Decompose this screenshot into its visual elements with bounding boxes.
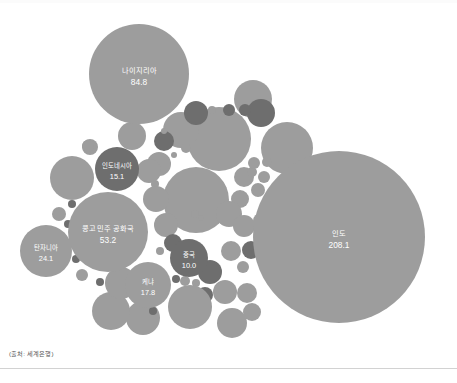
bubble-unlabeled [213, 280, 237, 304]
bubble-unlabeled [50, 156, 94, 200]
bubble-circle [68, 192, 148, 272]
bubble-unlabeled [180, 276, 190, 286]
bubble-unlabeled [248, 157, 260, 169]
bubble-labeled: 콩고 민주 공화국53.2 [68, 192, 148, 272]
source-note: (출처: 세계은행) [9, 349, 54, 358]
bubble-unlabeled [217, 308, 247, 338]
bubble-unlabeled [168, 285, 212, 329]
bubble-circle [95, 147, 139, 191]
bubble-unlabeled [171, 152, 177, 158]
bubble-labeled: 인도208.1 [253, 151, 425, 323]
bubble-unlabeled [172, 275, 180, 283]
bubble-unlabeled [68, 200, 76, 208]
bubble-unlabeled [233, 215, 255, 237]
bubble-labeled: 탄자니아24.1 [20, 225, 72, 277]
bottom-rule [0, 368, 457, 369]
bubble-circle [170, 239, 208, 277]
bubble-svg: 인도208.1나이지리아84.8콩고 민주 공화국53.2탄자니아24.1케냐1… [0, 0, 457, 348]
bubble-unlabeled [137, 159, 161, 183]
bubble-unlabeled [247, 99, 275, 127]
bubble-unlabeled [223, 104, 235, 116]
bubble-unlabeled [198, 215, 204, 221]
bubble-plot-area: 인도208.1나이지리아84.8콩고 민주 공화국53.2탄자니아24.1케냐1… [0, 0, 457, 348]
bubble-labeled: 나이지리아84.8 [89, 24, 189, 124]
bubble-unlabeled [191, 210, 199, 218]
bubble-circle [253, 151, 425, 323]
bubble-unlabeled [154, 213, 178, 237]
bubble-unlabeled [251, 183, 265, 197]
bubble-unlabeled [118, 122, 146, 150]
bubble-chart-figure: 인도208.1나이지리아84.8콩고 민주 공화국53.2탄자니아24.1케냐1… [0, 0, 457, 383]
bubble-unlabeled [237, 283, 257, 303]
bubble-unlabeled [262, 157, 272, 167]
bubble-unlabeled [208, 106, 216, 114]
bubble-unlabeled [221, 241, 241, 261]
bubble-circle [20, 225, 72, 277]
bubble-unlabeled [149, 307, 157, 315]
bubble-labeled: 케냐17.8 [125, 262, 171, 308]
bubble-unlabeled [239, 104, 251, 116]
bubble-unlabeled [82, 140, 94, 152]
bubble-unlabeled [76, 269, 88, 281]
bubble-unlabeled [52, 207, 66, 221]
bubble-unlabeled [143, 186, 169, 212]
bubble-unlabeled [161, 128, 167, 134]
bubble-unlabeled [156, 247, 164, 255]
bubble-unlabeled [184, 101, 208, 125]
bubble-unlabeled [258, 171, 270, 183]
bubble-unlabeled [237, 261, 249, 273]
bubble-unlabeled [96, 278, 104, 286]
bubble-labeled: 중국10.0 [170, 239, 208, 277]
bubble-labeled: 인도네시아15.1 [95, 147, 139, 191]
bubble-circle [125, 262, 171, 308]
bubble-unlabeled [181, 143, 191, 153]
bubble-circle [89, 24, 189, 124]
